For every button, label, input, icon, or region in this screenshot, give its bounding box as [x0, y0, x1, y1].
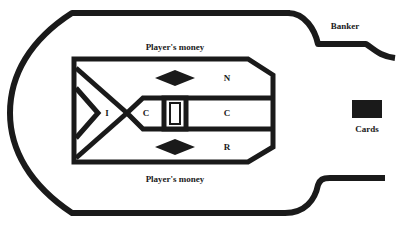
zone-n-label: N — [224, 74, 231, 83]
players-money-top-label: Player's money — [146, 43, 205, 52]
zone-r-label: R — [224, 143, 231, 152]
diagonal-upper — [76, 68, 127, 113]
card-table-diagram — [0, 0, 409, 225]
players-money-bottom-label: Player's money — [146, 175, 205, 184]
diamond-bottom — [155, 139, 195, 155]
zone-i-label: I — [105, 109, 109, 118]
zone-c-right-label: C — [224, 109, 231, 118]
zone-c-left-label: C — [143, 109, 150, 118]
chevron-i — [76, 88, 98, 138]
cards-box — [352, 100, 382, 118]
diagonal-lower — [76, 113, 127, 158]
diamond-top — [155, 70, 195, 86]
banker-alcove-outline — [288, 13, 395, 58]
cards-label: Cards — [355, 125, 379, 134]
banker-label: Banker — [331, 22, 360, 31]
